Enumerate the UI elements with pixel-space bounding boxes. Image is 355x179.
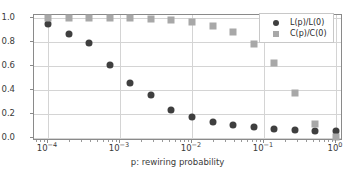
data-point-c <box>168 16 175 23</box>
x-tick-mark <box>335 140 336 143</box>
x-tick-mark-minor <box>252 140 253 142</box>
x-tick-mark-minor <box>162 140 163 142</box>
x-tick-mark-minor <box>213 140 214 142</box>
data-point-l <box>291 126 298 133</box>
data-point-c <box>45 15 52 22</box>
x-tick-label: 100 <box>328 143 343 153</box>
x-tick-mark-minor <box>180 140 181 142</box>
data-point-l <box>106 62 113 69</box>
x-tick-mark <box>263 140 264 143</box>
x-tick-label: 10−2 <box>181 143 201 153</box>
data-point-l <box>312 127 319 134</box>
x-tick-mark-minor <box>247 140 248 142</box>
data-point-l <box>65 30 72 37</box>
x-tick-mark-minor <box>169 140 170 142</box>
x-axis-label: p: rewiring probability <box>0 157 355 167</box>
legend-label-c: C(p)/C(0) <box>288 29 327 38</box>
x-tick-mark-minor <box>153 140 154 142</box>
legend-entry-c: C(p)/C(0) <box>264 28 327 39</box>
x-tick-mark <box>47 140 48 143</box>
x-tick-mark-minor <box>225 140 226 142</box>
y-tick-label: 0.6 <box>0 60 15 70</box>
x-tick-mark-minor <box>188 140 189 142</box>
data-point-c <box>189 18 196 25</box>
x-tick-mark-minor <box>97 140 98 142</box>
x-tick-label: 10−3 <box>109 143 129 153</box>
y-tick-label: 0.2 <box>0 108 15 118</box>
x-tick-mark-minor <box>103 140 104 142</box>
plot-area: L(p)/L(0) C(p)/C(0) <box>33 14 342 140</box>
y-tick-mark <box>30 89 33 90</box>
y-tick-label: 0.0 <box>0 132 15 142</box>
x-tick-mark-minor <box>324 140 325 142</box>
data-point-l <box>147 91 154 98</box>
legend-entry-l: L(p)/L(0) <box>264 17 327 28</box>
x-tick-mark <box>119 140 120 143</box>
gridline-horizontal <box>34 66 341 67</box>
y-tick-label: 1.0 <box>0 12 15 22</box>
y-tick-mark <box>30 65 33 66</box>
x-tick-mark-minor <box>175 140 176 142</box>
x-tick-mark-minor <box>44 140 45 142</box>
data-point-c <box>250 40 257 47</box>
x-tick-mark-minor <box>108 140 109 142</box>
data-point-c <box>147 15 154 22</box>
x-tick-mark <box>191 140 192 143</box>
y-tick-label: 0.8 <box>0 36 15 46</box>
x-tick-mark-minor <box>285 140 286 142</box>
gridline-vertical <box>336 15 337 139</box>
legend-square-marker-icon <box>264 31 288 37</box>
x-tick-mark-minor <box>260 140 261 142</box>
data-point-c <box>312 121 319 128</box>
x-tick-mark-minor <box>306 140 307 142</box>
data-point-c <box>230 28 237 35</box>
data-point-c <box>271 60 278 67</box>
x-tick-mark-minor <box>141 140 142 142</box>
x-tick-mark-minor <box>112 140 113 142</box>
data-point-l <box>45 21 52 28</box>
legend-circle-marker-icon <box>264 20 288 26</box>
gridline-horizontal <box>34 114 341 115</box>
x-tick-mark-minor <box>69 140 70 142</box>
data-point-c <box>86 15 93 22</box>
x-tick-mark-minor <box>256 140 257 142</box>
data-point-l <box>271 125 278 132</box>
chart-figure: L(p)/L(0) C(p)/C(0) 0.00.20.40.60.81.0 1… <box>0 0 355 179</box>
data-point-l <box>250 123 257 130</box>
data-point-l <box>86 40 93 47</box>
x-tick-mark-minor <box>332 140 333 142</box>
x-tick-mark-minor <box>313 140 314 142</box>
y-tick-mark <box>30 137 33 138</box>
data-point-c <box>65 15 72 22</box>
gridline-vertical <box>120 15 121 139</box>
data-point-l <box>189 114 196 121</box>
legend-label-l: L(p)/L(0) <box>288 18 324 27</box>
data-point-l <box>209 118 216 125</box>
x-tick-mark-minor <box>234 140 235 142</box>
x-tick-mark-minor <box>184 140 185 142</box>
x-tick-mark-minor <box>36 140 37 142</box>
data-point-c <box>333 134 340 141</box>
x-tick-mark-minor <box>81 140 82 142</box>
data-point-c <box>127 15 134 22</box>
x-tick-mark-minor <box>319 140 320 142</box>
y-tick-mark <box>30 113 33 114</box>
x-tick-label: 10−4 <box>37 143 57 153</box>
x-tick-mark-minor <box>116 140 117 142</box>
x-tick-mark-minor <box>241 140 242 142</box>
chart-legend: L(p)/L(0) C(p)/C(0) <box>259 13 334 43</box>
data-point-c <box>106 15 113 22</box>
x-tick-label: 10−1 <box>253 143 273 153</box>
data-point-l <box>230 121 237 128</box>
y-tick-label: 0.4 <box>0 84 15 94</box>
y-tick-mark <box>30 41 33 42</box>
x-tick-mark-minor <box>328 140 329 142</box>
data-point-c <box>209 22 216 29</box>
x-tick-mark-minor <box>90 140 91 142</box>
x-tick-mark-minor <box>297 140 298 142</box>
gridline-vertical <box>48 15 49 139</box>
gridline-horizontal <box>34 138 341 139</box>
data-point-c <box>291 90 298 97</box>
y-tick-mark <box>30 17 33 18</box>
x-tick-mark-minor <box>40 140 41 142</box>
